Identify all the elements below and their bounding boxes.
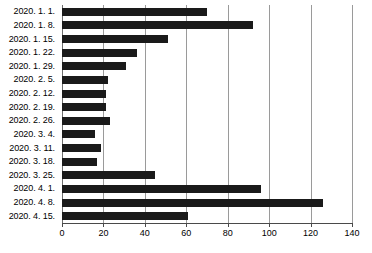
y-axis-tick-label: 2020. 3. 11. xyxy=(0,141,58,155)
gridline xyxy=(352,5,353,223)
bar-row xyxy=(62,155,352,169)
x-axis-tick xyxy=(228,223,229,227)
x-axis-tick xyxy=(186,223,187,227)
bar xyxy=(62,21,253,29)
bar-row xyxy=(62,32,352,46)
x-axis-tick xyxy=(311,223,312,227)
x-axis-tick-label: 0 xyxy=(59,229,64,238)
bar-row xyxy=(62,169,352,183)
x-axis-tick xyxy=(62,223,63,227)
y-axis-tick-label: 2020. 1. 29. xyxy=(0,60,58,74)
x-axis-tick xyxy=(145,223,146,227)
bar xyxy=(62,171,155,179)
plot-area xyxy=(62,5,352,223)
bar-series xyxy=(62,5,352,223)
bar-row xyxy=(62,209,352,223)
bar xyxy=(62,76,108,84)
bar-row xyxy=(62,128,352,142)
x-axis-tick-label: 140 xyxy=(344,229,359,238)
bar xyxy=(62,117,110,125)
bar-row xyxy=(62,141,352,155)
bar-row xyxy=(62,182,352,196)
y-axis-tick-label: 2020. 1. 8. xyxy=(0,19,58,33)
bar xyxy=(62,158,97,166)
bar-row xyxy=(62,196,352,210)
x-axis-tick-labels: 020406080100120140 xyxy=(62,229,352,243)
x-axis-tick xyxy=(352,223,353,227)
bar xyxy=(62,8,207,16)
y-axis-tick-label: 2020. 4. 1. xyxy=(0,182,58,196)
y-axis-tick-label: 2020. 1. 15. xyxy=(0,32,58,46)
x-axis-tick-label: 20 xyxy=(98,229,108,238)
y-axis-tick-label: 2020. 2. 5. xyxy=(0,73,58,87)
bar-row xyxy=(62,5,352,19)
bar xyxy=(62,144,101,152)
bar-row xyxy=(62,87,352,101)
y-axis-tick-label: 2020. 1. 1. xyxy=(0,5,58,19)
bar xyxy=(62,49,137,57)
x-axis-tick-label: 40 xyxy=(140,229,150,238)
bar xyxy=(62,212,188,220)
x-axis-tick-label: 60 xyxy=(181,229,191,238)
y-axis-tick-label: 2020. 2. 12. xyxy=(0,87,58,101)
x-axis-tick xyxy=(269,223,270,227)
bar-row xyxy=(62,19,352,33)
x-axis-tick xyxy=(103,223,104,227)
bar-row xyxy=(62,114,352,128)
bar-row xyxy=(62,100,352,114)
bar xyxy=(62,35,168,43)
bar xyxy=(62,199,323,207)
bar-row xyxy=(62,73,352,87)
y-axis-tick-label: 2020. 1. 22. xyxy=(0,46,58,60)
x-axis-tick-label: 80 xyxy=(223,229,233,238)
bar xyxy=(62,62,126,70)
y-axis-tick-label: 2020. 4. 15. xyxy=(0,209,58,223)
y-axis-tick-label: 2020. 4. 8. xyxy=(0,196,58,210)
x-axis-tick-label: 120 xyxy=(303,229,318,238)
y-axis-tick-label: 2020. 2. 19. xyxy=(0,100,58,114)
bar xyxy=(62,103,106,111)
y-axis-tick-label: 2020. 3. 4. xyxy=(0,128,58,142)
y-axis-tick-label: 2020. 3. 25. xyxy=(0,169,58,183)
y-axis-tick-label: 2020. 2. 26. xyxy=(0,114,58,128)
bar-chart: 2020. 1. 1. 2020. 1. 8. 2020. 1. 15. 202… xyxy=(0,0,372,253)
bar xyxy=(62,130,95,138)
y-axis-tick-label: 2020. 3. 18. xyxy=(0,155,58,169)
bar xyxy=(62,185,261,193)
bar-row xyxy=(62,46,352,60)
y-axis-category-labels: 2020. 1. 1. 2020. 1. 8. 2020. 1. 15. 202… xyxy=(0,5,58,223)
bar-row xyxy=(62,60,352,74)
x-axis-tick-label: 100 xyxy=(262,229,277,238)
bar xyxy=(62,90,106,98)
